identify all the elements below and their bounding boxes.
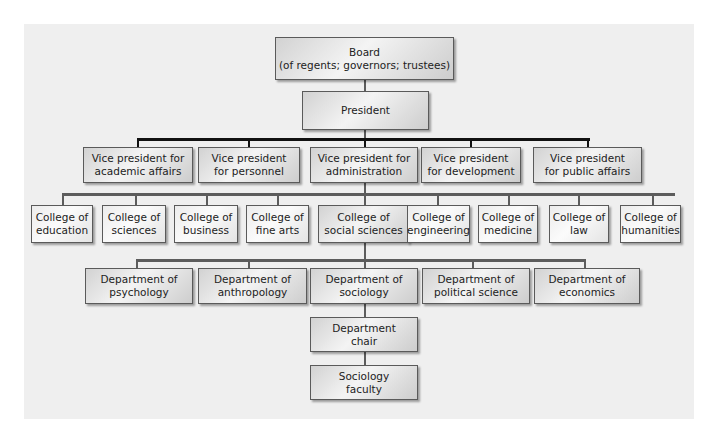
college-drop-6 bbox=[437, 193, 439, 205]
node-college-law: College of law bbox=[549, 205, 609, 243]
node-board-line2: (of regents; governors; trustees) bbox=[279, 59, 450, 72]
node-label: Department of bbox=[549, 273, 626, 286]
node-label: social sciences bbox=[324, 224, 402, 237]
node-label: Vice president bbox=[550, 152, 625, 165]
node-label: psychology bbox=[109, 286, 168, 299]
node-board: Board (of regents; governors; trustees) bbox=[275, 37, 454, 80]
node-college-medicine: College of medicine bbox=[478, 205, 538, 243]
college-bus-line bbox=[62, 193, 675, 196]
node-college-social-sciences: College of social sciences bbox=[318, 205, 409, 243]
node-label: business bbox=[183, 224, 229, 237]
node-label: engineering bbox=[407, 224, 470, 237]
college-drop-7 bbox=[508, 193, 510, 205]
node-vp-public-affairs: Vice president for public affairs bbox=[533, 147, 642, 183]
node-label: Department of bbox=[326, 273, 403, 286]
node-vp-personnel: Vice president for personnel bbox=[198, 147, 300, 183]
connector-board-president bbox=[364, 80, 366, 91]
node-label: Department of bbox=[438, 273, 515, 286]
node-dept-sociology: Department of sociology bbox=[310, 268, 418, 304]
dept-drop-4 bbox=[472, 259, 474, 268]
node-label: for personnel bbox=[214, 165, 284, 178]
node-president: President bbox=[302, 91, 429, 130]
node-label: faculty bbox=[346, 383, 382, 396]
college-drop-3 bbox=[206, 193, 208, 205]
node-college-fine-arts: College of fine arts bbox=[246, 205, 309, 243]
node-label: education bbox=[36, 224, 88, 237]
college-drop-1 bbox=[62, 193, 64, 205]
connector-social-depts bbox=[364, 243, 366, 260]
node-label: medicine bbox=[484, 224, 532, 237]
dept-drop-2 bbox=[248, 259, 250, 268]
node-label: College of bbox=[180, 211, 233, 224]
dept-drop-5 bbox=[584, 259, 586, 268]
node-college-engineering: College of engineering bbox=[407, 205, 470, 243]
node-label: political science bbox=[434, 286, 518, 299]
vp-drop-2 bbox=[248, 138, 250, 147]
connector-chair-faculty bbox=[364, 352, 366, 365]
node-label: College of bbox=[251, 211, 304, 224]
vp-drop-5 bbox=[587, 138, 589, 147]
college-drop-8 bbox=[578, 193, 580, 205]
dept-drop-3 bbox=[364, 259, 366, 268]
node-board-line1: Board bbox=[349, 46, 380, 59]
node-label: administration bbox=[326, 165, 402, 178]
vp-drop-4 bbox=[470, 138, 472, 147]
node-label: College of bbox=[36, 211, 89, 224]
node-label: anthropology bbox=[218, 286, 288, 299]
node-label: chair bbox=[351, 335, 377, 348]
node-vp-administration: Vice president for administration bbox=[310, 147, 418, 183]
node-vp-academic-affairs: Vice president for academic affairs bbox=[83, 147, 193, 183]
node-label: Sociology bbox=[339, 370, 389, 383]
node-college-education: College of education bbox=[31, 205, 93, 243]
node-dept-psychology: Department of psychology bbox=[85, 268, 193, 304]
node-vp-development: Vice president for development bbox=[421, 147, 521, 183]
vp-drop-3 bbox=[364, 138, 366, 147]
node-label: Vice president bbox=[434, 152, 509, 165]
node-dept-economics: Department of economics bbox=[534, 268, 640, 304]
node-label: Vice president for bbox=[92, 152, 185, 165]
node-label: fine arts bbox=[256, 224, 299, 237]
node-label: College of bbox=[553, 211, 606, 224]
node-label: economics bbox=[559, 286, 615, 299]
node-dept-anthropology: Department of anthropology bbox=[198, 268, 307, 304]
node-label: sociology bbox=[339, 286, 388, 299]
node-sociology-faculty: Sociology faculty bbox=[310, 365, 418, 400]
vp-drop-1 bbox=[137, 138, 139, 147]
node-label: for public affairs bbox=[545, 165, 631, 178]
node-label: sciences bbox=[112, 224, 157, 237]
node-label: humanities bbox=[621, 224, 680, 237]
node-label: for development bbox=[427, 165, 514, 178]
connector-soc-chair bbox=[364, 304, 366, 317]
node-dept-political-science: Department of political science bbox=[422, 268, 530, 304]
node-label: Vice president bbox=[212, 152, 287, 165]
node-department-chair: Department chair bbox=[310, 317, 418, 352]
node-president-label: President bbox=[341, 104, 390, 117]
node-label: law bbox=[570, 224, 588, 237]
node-college-sciences: College of sciences bbox=[102, 205, 166, 243]
node-label: Department of bbox=[214, 273, 291, 286]
node-label: College of bbox=[624, 211, 677, 224]
node-label: academic affairs bbox=[95, 165, 182, 178]
college-drop-9 bbox=[652, 193, 654, 205]
dept-drop-1 bbox=[136, 259, 138, 268]
dept-bus-line bbox=[136, 259, 586, 262]
college-drop-2 bbox=[135, 193, 137, 205]
node-label: College of bbox=[482, 211, 535, 224]
node-college-business: College of business bbox=[174, 205, 238, 243]
node-college-humanities: College of humanities bbox=[620, 205, 681, 243]
node-label: Department of bbox=[101, 273, 178, 286]
college-drop-5 bbox=[364, 193, 366, 205]
node-label: College of bbox=[337, 211, 390, 224]
college-drop-4 bbox=[277, 193, 279, 205]
node-label: Vice president for bbox=[318, 152, 411, 165]
node-label: College of bbox=[108, 211, 161, 224]
node-label: Department bbox=[332, 322, 396, 335]
node-label: College of bbox=[412, 211, 465, 224]
